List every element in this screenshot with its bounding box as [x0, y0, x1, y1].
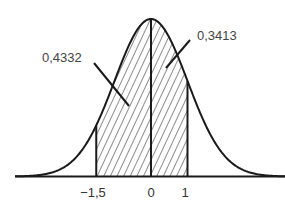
area-label-left: 0,4332 [42, 51, 82, 64]
normal-curve-diagram [0, 0, 285, 204]
tick-label-0: 0 [147, 186, 154, 199]
tick-label-1: 1 [181, 186, 188, 199]
tick-label-neg1-5: −1,5 [80, 186, 106, 199]
shaded-region [96, 19, 187, 177]
area-label-right: 0,3413 [197, 29, 237, 42]
